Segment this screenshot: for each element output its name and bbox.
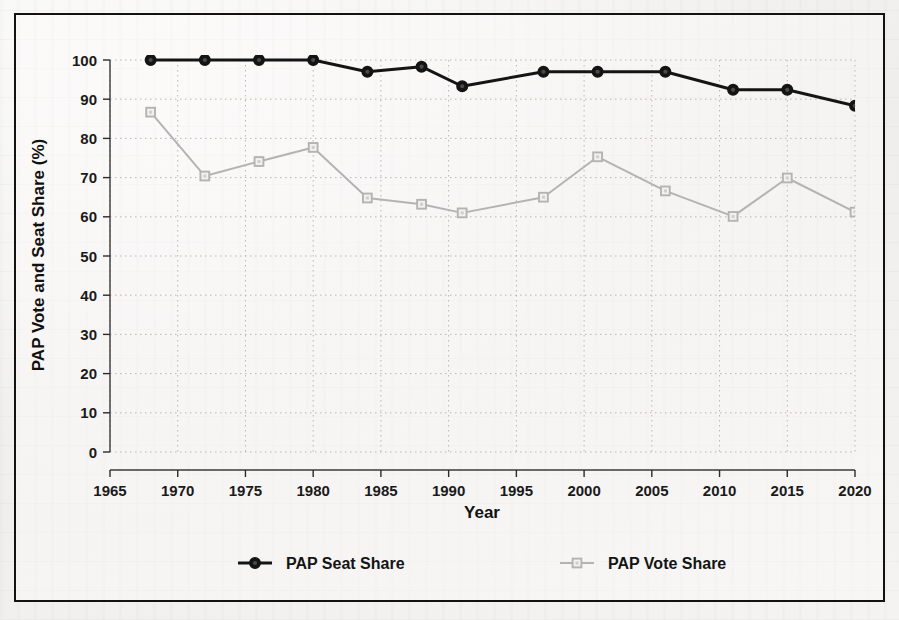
figure-border-frame	[14, 13, 885, 602]
